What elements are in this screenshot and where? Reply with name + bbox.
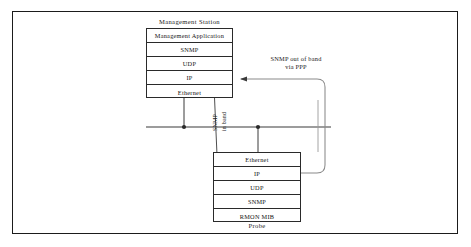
probe-layer-rmon-mib: RMON MIB xyxy=(214,209,300,223)
snmp-out-of-band-label: SNMP out of band via PPP xyxy=(248,55,344,72)
probe-layer-snmp: SNMP xyxy=(214,195,300,209)
ms-layer-ip: IP xyxy=(147,71,232,85)
diagram-canvas: Management Station Management Applicatio… xyxy=(0,0,471,247)
probe-bus-junction xyxy=(256,125,260,129)
probe-title: Probe xyxy=(213,222,301,229)
snmp-in-band-label-snmp: SNMP xyxy=(212,114,218,131)
management-station-bus-junction xyxy=(182,125,186,129)
ms-layer-udp: UDP xyxy=(147,57,232,71)
probe-stack: Ethernet IP UDP SNMP RMON MIB xyxy=(213,152,301,222)
out-of-band-line-2: via PPP xyxy=(248,63,344,71)
snmp-in-band-label-in-band: in band xyxy=(221,112,227,131)
management-station-stack: Management Application SNMP UDP IP Ether… xyxy=(146,28,233,98)
out-of-band-line-1: SNMP out of band xyxy=(248,55,344,63)
ms-layer-ethernet: Ethernet xyxy=(147,85,232,99)
management-station-title: Management Station xyxy=(146,18,233,25)
ppp-arrow-into-management-ip xyxy=(240,76,247,81)
probe-layer-ethernet: Ethernet xyxy=(214,153,300,167)
probe-layer-ip: IP xyxy=(214,167,300,181)
ms-layer-snmp: SNMP xyxy=(147,43,232,57)
ms-layer-management-application: Management Application xyxy=(147,29,232,43)
probe-layer-udp: UDP xyxy=(214,181,300,195)
